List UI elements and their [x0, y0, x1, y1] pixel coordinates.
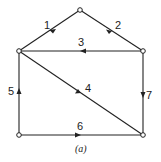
figure-caption: (a) — [75, 143, 87, 155]
arrow-edge-5-icon — [17, 88, 22, 94]
edge-label-6: 6 — [77, 120, 83, 132]
node-top — [78, 8, 83, 13]
node-bottom-right — [141, 133, 146, 138]
directed-graph: 1 2 3 4 5 6 7 (a) — [0, 0, 161, 162]
arrow-edge-7-icon — [141, 92, 146, 98]
node-right — [141, 49, 146, 54]
edge-label-3: 3 — [78, 36, 84, 48]
edge-label-5: 5 — [8, 85, 14, 97]
edge-label-4: 4 — [85, 82, 91, 94]
edge-label-1: 1 — [44, 19, 50, 31]
arrow-edge-3-icon — [80, 49, 86, 54]
edge-2 — [80, 10, 143, 51]
edge-label-7: 7 — [146, 89, 152, 101]
node-left — [17, 49, 22, 54]
arrow-edge-6-icon — [75, 133, 81, 138]
edge-label-2: 2 — [115, 19, 121, 31]
node-bottom-left — [17, 133, 22, 138]
